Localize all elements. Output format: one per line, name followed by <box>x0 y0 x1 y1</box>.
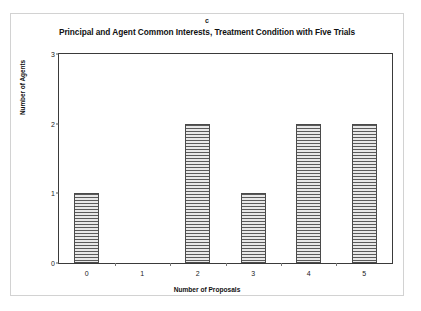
bar <box>296 124 321 263</box>
x-tick-label: 4 <box>307 270 311 277</box>
bar <box>352 124 377 263</box>
y-tick-mark <box>56 193 59 194</box>
figure-frame: c Principal and Agent Common Interests, … <box>10 13 404 296</box>
bar <box>74 193 99 263</box>
x-tick-label: 1 <box>140 270 144 277</box>
x-tick-label: 0 <box>85 270 89 277</box>
bar <box>185 124 210 263</box>
y-tick-mark <box>56 123 59 124</box>
x-tick-mark <box>170 263 171 266</box>
y-tick-label: 0 <box>51 260 55 267</box>
y-tick-label: 3 <box>51 51 55 58</box>
x-tick-mark <box>226 263 227 266</box>
x-tick-label: 2 <box>196 270 200 277</box>
x-tick-label: 3 <box>251 270 255 277</box>
x-tick-mark <box>336 263 337 266</box>
x-axis-label: Number of Proposals <box>11 286 403 293</box>
y-tick-label: 2 <box>51 120 55 127</box>
plot-area: 0 1 2 3 0 1 2 3 4 5 <box>58 53 393 264</box>
panel-label: c <box>11 17 403 24</box>
x-tick-mark <box>115 263 116 266</box>
y-tick-mark <box>56 54 59 55</box>
bar <box>241 193 266 263</box>
y-axis-label: Number of Agents <box>19 52 26 124</box>
x-tick-mark <box>281 263 282 266</box>
y-tick-label: 1 <box>51 190 55 197</box>
x-tick-label: 5 <box>362 270 366 277</box>
chart-title: Principal and Agent Common Interests, Tr… <box>11 27 403 37</box>
y-tick-mark <box>56 263 59 264</box>
